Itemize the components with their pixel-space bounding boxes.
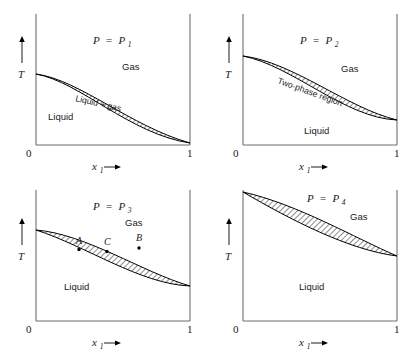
gas-region-label-4: Gas — [350, 211, 368, 222]
y-axis-label-2: T — [225, 68, 232, 80]
point-marker-b-3 — [137, 246, 140, 249]
x-axis-label-1: x 1 — [91, 160, 103, 175]
t-axis-arrowhead-1 — [19, 36, 25, 42]
panel-title-1: P = P 1 — [92, 34, 132, 49]
phase-diagram-panel-3: T P = P 3 Gas Liquid A C B 0 1 x 1 — [0, 176, 207, 352]
y-axis-label-3: T — [18, 250, 25, 262]
two-phase-lens-label-1: Liquid + gas — [75, 93, 123, 113]
phase-diagram-panel-2: T P = P 2 Gas Liquid Two-phase region 0 … — [207, 0, 414, 176]
gas-region-label-2: Gas — [341, 63, 359, 74]
gas-region-label-1: Gas — [122, 61, 140, 72]
point-label-b-3: B — [136, 232, 142, 243]
panel-title-3: P = P 3 — [92, 200, 132, 215]
x-axis-arrowhead-3 — [115, 340, 121, 345]
t-axis-arrowhead-3 — [19, 218, 25, 224]
x-axis-tick-right-3: 1 — [187, 323, 193, 335]
x-axis-tick-right-4: 1 — [394, 323, 400, 335]
point-marker-c-3 — [105, 250, 108, 253]
x-axis-arrowhead-1 — [115, 164, 121, 169]
liquid-region-label-4: Liquid — [299, 281, 324, 292]
x-axis-tick-origin-3: 0 — [26, 323, 32, 335]
y-axis-label-4: T — [225, 250, 232, 262]
two-phase-lens-fill-2 — [243, 56, 397, 120]
point-marker-a-3 — [77, 248, 80, 251]
y-axis-label-1: T — [18, 68, 25, 80]
panel-title-2: P = P 2 — [299, 34, 339, 49]
point-label-a-3: A — [75, 235, 83, 246]
x-axis-tick-origin-4: 0 — [233, 323, 239, 335]
phase-diagram-panel-4: T P = P 4 Gas Liquid 0 1 x 1 — [207, 176, 414, 352]
phase-diagram-panel-1: T P = P 1 Gas Liquid Liquid + gas 0 1 x … — [0, 0, 207, 176]
liquid-region-label-3: Liquid — [64, 281, 89, 292]
x-axis-tick-origin-1: 0 — [26, 147, 32, 159]
panel-title-4: P = P 4 — [306, 192, 346, 207]
x-axis-label-4: x 1 — [298, 336, 310, 351]
t-axis-arrowhead-4 — [226, 218, 232, 224]
x-axis-arrowhead-4 — [322, 340, 328, 345]
x-axis-tick-right-1: 1 — [187, 147, 193, 159]
x-axis-label-2: x 1 — [298, 160, 310, 175]
liquid-region-label-1: Liquid — [48, 111, 73, 122]
liquid-region-label-2: Liquid — [304, 125, 329, 136]
phase-diagram-figure: T P = P 1 Gas Liquid Liquid + gas 0 1 x … — [0, 0, 415, 353]
x-axis-tick-right-2: 1 — [394, 147, 400, 159]
x-axis-tick-origin-2: 0 — [233, 147, 239, 159]
x-axis-label-3: x 1 — [91, 336, 103, 351]
t-axis-arrowhead-2 — [226, 36, 232, 42]
gas-region-label-3: Gas — [125, 217, 143, 228]
point-label-c-3: C — [104, 236, 111, 247]
x-axis-arrowhead-2 — [322, 164, 328, 169]
